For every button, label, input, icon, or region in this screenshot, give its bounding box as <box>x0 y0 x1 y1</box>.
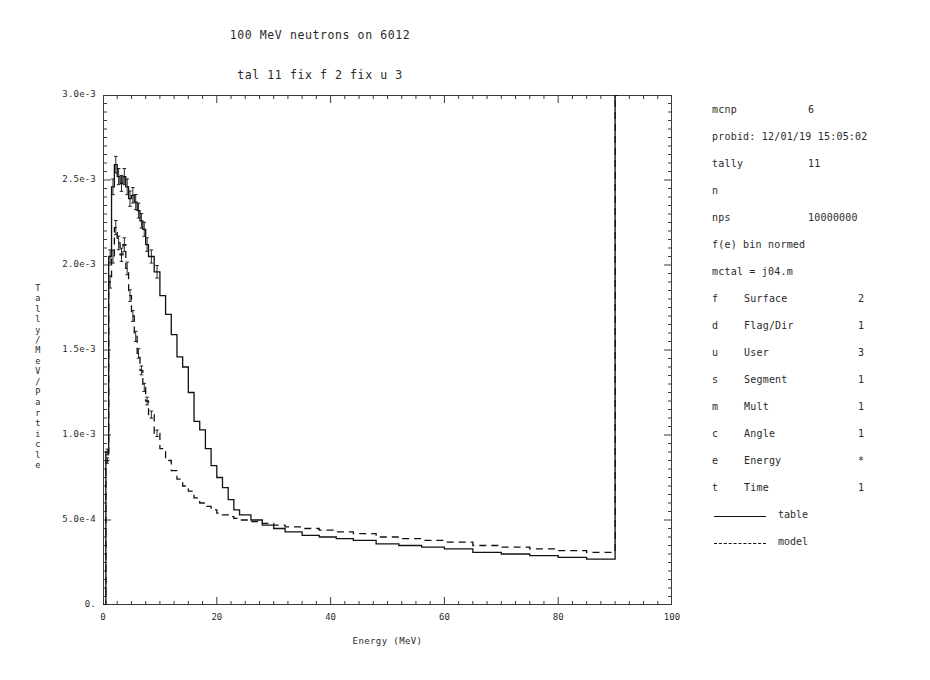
probid-text: probid: 12/01/19 15:05:02 <box>712 131 868 142</box>
mcnp-version: 6 <box>808 104 814 115</box>
mctal-file: mctal = j04.m <box>712 266 793 277</box>
info-panel: mcnp 6 probid: 12/01/19 15:05:02 tally 1… <box>712 104 927 563</box>
axis-tick-marks <box>103 95 672 605</box>
info-row-mctal: mctal = j04.m <box>712 266 927 293</box>
tally-plot <box>103 95 672 605</box>
data-series-group <box>103 95 618 605</box>
x-axis-label: Energy (MeV) <box>103 636 672 646</box>
x-tick-label: 40 <box>311 612 351 622</box>
bin-row-time: tTime1 <box>712 482 927 509</box>
legend-line-solid-icon <box>714 516 766 517</box>
info-row-particle: n <box>712 185 927 212</box>
legend-line-dashed-icon <box>714 543 766 544</box>
mcnp-label: mcnp <box>712 104 737 115</box>
x-tick-label: 60 <box>424 612 464 622</box>
series-table <box>103 95 618 605</box>
bin-code: e <box>712 455 718 466</box>
normalization-text: f(e) bin normed <box>712 239 805 250</box>
bin-row-surface: fSurface2 <box>712 293 927 320</box>
legend-item-model: model <box>712 536 927 563</box>
bin-value: 2 <box>858 293 864 304</box>
x-tick-label: 20 <box>197 612 237 622</box>
info-row-normalization: f(e) bin normed <box>712 239 927 266</box>
bin-code: t <box>712 482 718 493</box>
nps-label: nps <box>712 212 731 223</box>
y-tick-label: 1.0e-3 <box>34 429 96 439</box>
bin-row-user: uUser3 <box>712 347 927 374</box>
x-tick-label: 80 <box>538 612 578 622</box>
tally-label: tally <box>712 158 743 169</box>
bin-row-mult: mMult1 <box>712 401 927 428</box>
legend-label: model <box>778 536 808 547</box>
y-tick-label: 2.0e-3 <box>34 259 96 269</box>
bin-code: f <box>712 293 718 304</box>
y-tick-label: 1.5e-3 <box>34 344 96 354</box>
bin-value: 1 <box>858 374 864 385</box>
x-tick-label: 0 <box>83 612 123 622</box>
bin-value: 1 <box>858 482 864 493</box>
bin-value: 1 <box>858 401 864 412</box>
legend-label: table <box>778 509 808 520</box>
bin-code: u <box>712 347 718 358</box>
y-tick-label: 0. <box>34 599 96 609</box>
bin-name: Segment <box>744 374 788 385</box>
page-subtitle: tal 11 fix f 2 fix u 3 <box>0 68 640 82</box>
x-tick-label: 100 <box>652 612 692 622</box>
plot-legend: tablemodel <box>712 509 927 563</box>
legend-item-table: table <box>712 509 927 536</box>
y-tick-label: 3.0e-3 <box>34 89 96 99</box>
particle-type: n <box>712 185 718 196</box>
page-title: 100 MeV neutrons on 6012 <box>0 28 640 42</box>
plot-frame <box>104 96 672 605</box>
bin-name: User <box>744 347 769 358</box>
y-tick-label: 5.0e-4 <box>34 514 96 524</box>
bin-row-flag-dir: dFlag/Dir1 <box>712 320 927 347</box>
info-row-nps: nps 10000000 <box>712 212 927 239</box>
info-row-tally: tally 11 <box>712 158 927 185</box>
bin-name: Energy <box>744 455 781 466</box>
bin-name: Flag/Dir <box>744 320 794 331</box>
bin-row-energy: eEnergy* <box>712 455 927 482</box>
bin-code: s <box>712 374 718 385</box>
info-row-probid: probid: 12/01/19 15:05:02 <box>712 131 927 158</box>
bin-name: Surface <box>744 293 788 304</box>
x-axis-ticks: 020406080100 <box>103 612 672 632</box>
plot-canvas <box>103 95 672 605</box>
tally-number: 11 <box>808 158 820 169</box>
y-axis-ticks: 0.5.0e-41.0e-31.5e-32.0e-32.5e-33.0e-3 <box>28 95 96 605</box>
bin-value: 3 <box>858 347 864 358</box>
bin-value: 1 <box>858 320 864 331</box>
bin-value: 1 <box>858 428 864 439</box>
bin-name: Angle <box>744 428 775 439</box>
bin-code: d <box>712 320 718 331</box>
bin-code: m <box>712 401 718 412</box>
bin-value: * <box>858 455 864 466</box>
info-row-mcnp: mcnp 6 <box>712 104 927 131</box>
error-bars <box>105 156 158 463</box>
bin-name: Time <box>744 482 769 493</box>
bin-code: c <box>712 428 718 439</box>
bin-row-angle: cAngle1 <box>712 428 927 455</box>
bin-table: fSurface2dFlag/Dir1uUser3sSegment1mMult1… <box>712 293 927 509</box>
y-tick-label: 2.5e-3 <box>34 174 96 184</box>
bin-row-segment: sSegment1 <box>712 374 927 401</box>
series-model <box>103 95 618 605</box>
bin-name: Mult <box>744 401 769 412</box>
nps-value: 10000000 <box>808 212 858 223</box>
